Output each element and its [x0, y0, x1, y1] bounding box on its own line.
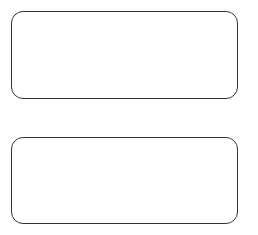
box-bottom-text [12, 138, 237, 223]
empty-box-bottom [11, 137, 238, 224]
box-top-text [12, 12, 237, 98]
empty-box-top [11, 11, 238, 99]
